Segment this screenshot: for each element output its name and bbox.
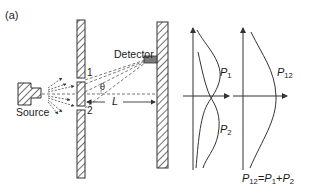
curve-p2-label: P2 <box>220 124 232 137</box>
slit-1-label: 1 <box>87 68 93 78</box>
graph-combined-probability <box>233 28 287 170</box>
source-label: Source <box>16 107 49 118</box>
detector-screen <box>157 22 168 168</box>
emitted-rays <box>48 78 74 114</box>
slit-2-label: 2 <box>87 106 93 116</box>
graph-individual-probabilities <box>183 28 229 170</box>
curve-p2 <box>198 52 219 168</box>
panel-label: (a) <box>5 10 18 21</box>
slit-barrier <box>77 20 85 178</box>
source-icon <box>18 83 41 105</box>
angle-label: θ <box>100 83 105 92</box>
sum-equation: P12=P1+P2 <box>242 173 294 186</box>
distance-label: L <box>112 96 118 107</box>
detector-label: Detector <box>114 49 154 60</box>
curve-p12 <box>250 32 276 168</box>
double-slit-diagram <box>0 0 309 196</box>
curve-p12-label: P12 <box>277 67 293 80</box>
curve-p1-label: P1 <box>220 67 232 80</box>
curve-p1 <box>196 30 220 168</box>
